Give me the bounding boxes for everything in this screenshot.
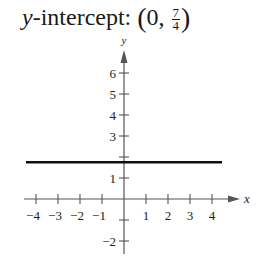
- x-tick-label: −2: [70, 208, 84, 223]
- y-axis-arrow-icon: [121, 50, 128, 63]
- x-axis-arrow-icon: [228, 196, 240, 203]
- plot-area: xy−4−3−2−11234−213456: [0, 0, 256, 262]
- x-tick-label: 2: [165, 208, 172, 223]
- x-tick-label: −4: [26, 208, 40, 223]
- x-axis-label: x: [243, 191, 250, 206]
- y-tick-label: 5: [110, 87, 117, 102]
- x-tick-label: 1: [143, 208, 150, 223]
- y-tick-label: 1: [110, 171, 117, 186]
- x-tick-label: −1: [92, 208, 106, 223]
- x-tick-label: −3: [48, 208, 62, 223]
- y-tick-label: 6: [110, 66, 117, 81]
- y-tick-label: 3: [110, 129, 117, 144]
- y-tick-label: −2: [102, 234, 116, 249]
- x-tick-label: 4: [209, 208, 216, 223]
- y-axis-label: y: [121, 34, 127, 46]
- y-tick-label: 4: [110, 108, 117, 123]
- x-tick-label: 3: [187, 208, 194, 223]
